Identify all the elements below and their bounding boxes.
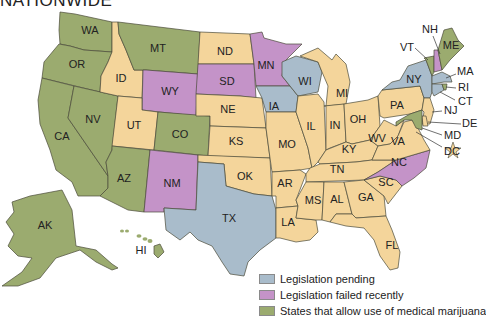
label-DE: DE xyxy=(462,117,477,129)
label-IA: IA xyxy=(269,100,280,112)
label-CT: CT xyxy=(458,95,473,107)
label-AL: AL xyxy=(330,193,343,205)
label-MD: MD xyxy=(444,129,461,141)
label-WY: WY xyxy=(161,85,179,97)
label-UT: UT xyxy=(127,119,142,131)
leader-md xyxy=(422,128,442,135)
label-MA: MA xyxy=(457,65,474,77)
label-RI: RI xyxy=(458,81,469,93)
label-MT: MT xyxy=(150,42,166,54)
label-WV: WV xyxy=(368,132,386,144)
label-FL: FL xyxy=(386,239,399,251)
label-TX: TX xyxy=(222,212,237,224)
label-CA: CA xyxy=(54,130,70,142)
label-GA: GA xyxy=(358,191,375,203)
label-TN: TN xyxy=(330,163,345,175)
legend-label-pending: Legislation pending xyxy=(280,273,375,285)
leader-ct xyxy=(440,92,455,100)
label-OK: OK xyxy=(237,170,254,182)
label-WA: WA xyxy=(81,24,99,36)
label-MO: MO xyxy=(278,138,296,150)
legend-swatch-pending xyxy=(259,274,275,284)
legend-swatch-failed xyxy=(259,290,275,300)
legend-label-failed: Legislation failed recently xyxy=(280,289,404,301)
label-AK: AK xyxy=(38,219,53,231)
state-MA[interactable] xyxy=(432,72,452,84)
legend-item-failed: Legislation failed recently xyxy=(259,287,486,303)
leader-vt xyxy=(415,48,428,60)
state-AK[interactable] xyxy=(2,190,118,286)
label-OH: OH xyxy=(350,113,367,125)
legend: Legislation pending Legislation failed r… xyxy=(259,271,486,319)
label-ND: ND xyxy=(217,45,233,57)
legend-label-legal: States that allow use of medical marijua… xyxy=(280,305,486,317)
legend-item-legal: States that allow use of medical marijua… xyxy=(259,303,486,319)
label-PA: PA xyxy=(390,99,405,111)
label-NV: NV xyxy=(85,113,101,125)
label-AR: AR xyxy=(277,177,292,189)
state-CT[interactable] xyxy=(432,84,444,96)
label-KS: KS xyxy=(229,135,244,147)
label-IL: IL xyxy=(306,120,315,132)
legend-item-pending: Legislation pending xyxy=(259,271,486,287)
label-NJ: NJ xyxy=(444,104,457,116)
leader-de xyxy=(428,122,461,124)
label-DC: DC xyxy=(444,145,460,157)
label-NY: NY xyxy=(406,73,422,85)
label-NE: NE xyxy=(220,103,235,115)
label-AZ: AZ xyxy=(117,172,131,184)
label-MI: MI xyxy=(336,87,348,99)
label-ME: ME xyxy=(443,39,460,51)
label-NM: NM xyxy=(163,177,180,189)
label-SD: SD xyxy=(219,75,234,87)
label-OR: OR xyxy=(69,58,86,70)
label-KY: KY xyxy=(342,143,357,155)
label-NH: NH xyxy=(422,23,438,35)
label-ID: ID xyxy=(116,72,127,84)
legend-swatch-legal xyxy=(259,306,275,316)
label-LA: LA xyxy=(281,216,295,228)
label-VT: VT xyxy=(400,41,414,53)
label-IN: IN xyxy=(330,119,341,131)
label-HI: HI xyxy=(136,244,147,256)
label-MS: MS xyxy=(305,194,322,206)
label-NC: NC xyxy=(391,156,407,168)
label-CO: CO xyxy=(172,128,189,140)
label-WI: WI xyxy=(298,75,311,87)
leader-ri xyxy=(446,87,456,88)
label-VA: VA xyxy=(391,135,406,147)
label-SC: SC xyxy=(378,176,393,188)
label-MN: MN xyxy=(257,59,274,71)
